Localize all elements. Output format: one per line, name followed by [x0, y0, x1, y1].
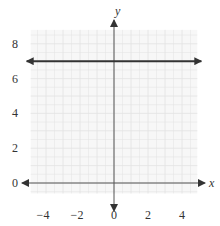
- y-tick-label: 8: [12, 37, 18, 51]
- y-tick-label: 2: [12, 141, 18, 155]
- y-tick-label: 4: [12, 106, 18, 120]
- x-tick-label: 2: [145, 208, 151, 222]
- y-tick-label: 6: [12, 72, 18, 86]
- x-tick-label: −2: [71, 208, 84, 222]
- x-axis-label: x: [208, 176, 215, 190]
- y-tick-label: 0: [12, 176, 18, 190]
- x-tick-label: 4: [179, 208, 185, 222]
- x-tick-label: −4: [37, 208, 50, 222]
- y-axis-label: y: [114, 4, 121, 18]
- x-tick-label: 0: [111, 208, 117, 222]
- coordinate-plane: xy −4−202402468: [0, 0, 220, 226]
